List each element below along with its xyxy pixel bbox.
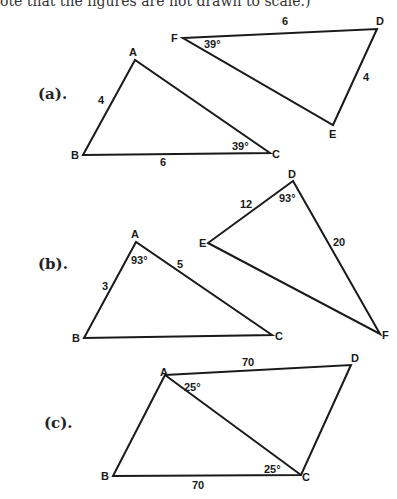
vertex-label-d: D xyxy=(288,168,296,180)
side-label-df: 20 xyxy=(333,236,345,248)
side-label-bc: 6 xyxy=(160,156,166,168)
vertex-label-b: B xyxy=(101,470,109,482)
vertex-label-e: E xyxy=(199,237,206,249)
vertex-label-b: B xyxy=(72,332,80,344)
vertex-label-d: D xyxy=(351,352,359,364)
angle-label-a: 93° xyxy=(131,254,148,266)
vertex-label-a: A xyxy=(129,46,137,58)
triangle-fde-a: F D E 6 4 39° xyxy=(171,15,384,140)
side-label-ac: 5 xyxy=(177,258,183,270)
vertex-label-c: C xyxy=(275,330,283,342)
figures-canvas: A B C 4 6 39° F D E 6 4 39° A B C 3 5 93… xyxy=(0,0,397,499)
vertex-label-d: D xyxy=(376,15,384,27)
vertex-label-c: C xyxy=(302,471,310,483)
angle-label-c: 25° xyxy=(264,463,281,475)
angle-label-c: 39° xyxy=(232,140,249,152)
triangle-def-b: D E F 12 20 93° xyxy=(199,168,389,341)
side-label-ad: 70 xyxy=(242,356,254,368)
vertex-label-a: A xyxy=(160,366,168,378)
triangle-abc-a: A B C 4 6 39° xyxy=(71,46,280,168)
side-label-fd: 6 xyxy=(282,15,288,27)
vertex-label-e: E xyxy=(329,128,336,140)
angle-label-d: 93° xyxy=(279,192,296,204)
vertex-label-f: F xyxy=(171,32,178,44)
angle-label-f: 39° xyxy=(204,38,221,50)
triangle-abc-b: A B C 3 5 93° xyxy=(72,228,283,344)
side-label-ab: 3 xyxy=(102,280,108,292)
side-label-bc: 70 xyxy=(192,479,204,491)
quadrilateral-abcd-c: A B C D 70 70 25° 25° xyxy=(101,352,359,491)
vertex-label-c: C xyxy=(272,148,280,160)
angle-label-a: 25° xyxy=(184,381,201,393)
side-label-ab: 4 xyxy=(98,94,105,106)
side-label-de: 12 xyxy=(240,198,252,210)
vertex-label-b: B xyxy=(71,149,79,161)
side-label-de: 4 xyxy=(363,71,370,83)
vertex-label-f: F xyxy=(382,329,389,341)
vertex-label-a: A xyxy=(131,228,139,240)
